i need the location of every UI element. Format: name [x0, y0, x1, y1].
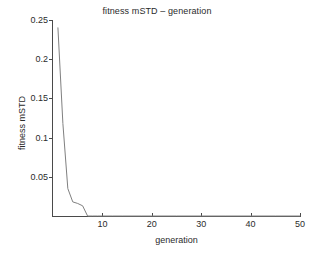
x-tick-label: 10	[82, 219, 122, 229]
chart-figure: fitness mSTD – generation fitness mSTD g…	[0, 0, 314, 262]
y-tick-label: 0.15	[0, 93, 48, 103]
x-tick-label: 30	[181, 219, 221, 229]
series-line-fitness-mstd	[53, 20, 300, 216]
x-axis-label: generation	[53, 235, 300, 245]
y-tick-label: 0.05	[0, 172, 48, 182]
plot-area	[53, 20, 300, 216]
y-axis-label: fitness mSTD	[17, 58, 27, 188]
x-tick-label: 50	[280, 219, 314, 229]
x-tick-label: 20	[132, 219, 172, 229]
x-tick-label: 40	[231, 219, 271, 229]
y-tick-label: 0.2	[0, 54, 48, 64]
y-tick-label: 0.1	[0, 133, 48, 143]
y-tick-label: 0.25	[0, 15, 48, 25]
